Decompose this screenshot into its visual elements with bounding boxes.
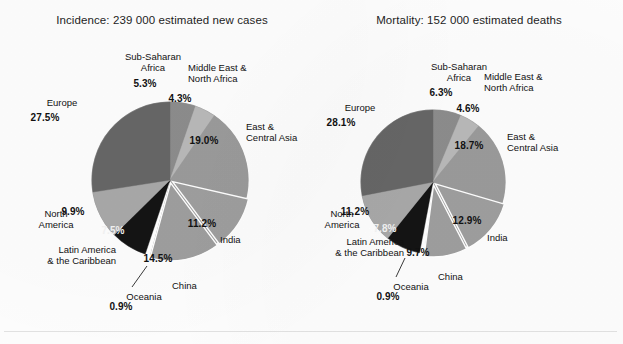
slice-value-china: 14.5% xyxy=(138,254,178,265)
slice-label-latin-america-and-the-caribbean: Latin America & the Caribbean xyxy=(308,237,404,258)
slice-label-middle-east-and-north-africa: Middle East & North Africa xyxy=(484,72,566,93)
slice-value-latin-america-and-the-caribbean: 7.5% xyxy=(93,226,133,237)
slice-label-china: China xyxy=(172,281,212,292)
mortality-pie-svg xyxy=(311,0,623,344)
oceania-leader-line xyxy=(396,258,405,277)
page-rule xyxy=(4,331,617,332)
slice-value-east-and-central-asia: 19.0% xyxy=(184,136,224,147)
slice-value-north-america: 9.9% xyxy=(53,207,93,218)
mortality-chart-panel: Mortality: 152 000 estimated deaths Sub-… xyxy=(311,0,623,344)
slice-value-europe: 27.5% xyxy=(25,113,65,124)
incidence-chart-panel: Incidence: 239 000 estimated new cases S… xyxy=(0,0,312,344)
pie-slice-europe[interactable] xyxy=(361,110,433,196)
slice-value-india: 11.2% xyxy=(182,219,222,230)
pie-slice-europe[interactable] xyxy=(92,102,170,192)
slice-label-middle-east-and-north-africa: Middle East & North Africa xyxy=(188,63,270,84)
slice-value-sub-saharan-africa: 5.3% xyxy=(125,79,165,90)
figure-canvas: Incidence: 239 000 estimated new cases S… xyxy=(0,0,623,344)
slice-value-india: 12.9% xyxy=(447,216,487,227)
slice-value-sub-saharan-africa: 6.3% xyxy=(421,88,461,99)
oceania-leader-line xyxy=(132,266,147,287)
slice-value-latin-america-and-the-caribbean: 7.8% xyxy=(365,224,405,235)
slice-value-middle-east-and-north-africa: 4.3% xyxy=(160,94,200,105)
slice-value-europe: 28.1% xyxy=(321,118,361,129)
slice-label-sub-saharan-africa: Sub-Saharan Africa xyxy=(118,52,188,73)
slice-value-middle-east-and-north-africa: 4.6% xyxy=(448,104,488,115)
slice-value-east-and-central-asia: 18.7% xyxy=(449,141,489,152)
slice-label-europe: Europe xyxy=(38,98,86,109)
slice-label-india: India xyxy=(487,233,527,244)
slice-value-north-america: 11.2% xyxy=(335,207,375,218)
slice-value-china: 9.7% xyxy=(398,248,438,259)
slice-value-oceania: 0.9% xyxy=(368,292,408,303)
slice-value-oceania: 0.9% xyxy=(101,302,141,313)
slice-label-latin-america-and-the-caribbean: Latin America & the Caribbean xyxy=(16,245,116,266)
slice-label-india: India xyxy=(220,235,260,246)
slice-label-china: China xyxy=(438,272,478,283)
slice-label-east-and-central-asia: East & Central Asia xyxy=(507,132,569,153)
slice-label-europe: Europe xyxy=(336,103,384,114)
slice-label-east-and-central-asia: East & Central Asia xyxy=(246,122,312,143)
